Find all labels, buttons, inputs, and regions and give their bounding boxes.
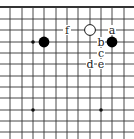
star-point-icon xyxy=(31,40,35,44)
black-stone-icon xyxy=(39,37,50,48)
star-point-icon xyxy=(99,108,103,112)
point-label-a: a xyxy=(109,24,116,37)
white-stone-icon xyxy=(85,25,96,36)
black-stone-icon xyxy=(107,37,118,48)
point-label-d: d xyxy=(86,58,93,71)
point-label-e: e xyxy=(98,58,105,71)
go-board: fabcde xyxy=(0,0,134,139)
star-point-icon xyxy=(31,108,35,112)
